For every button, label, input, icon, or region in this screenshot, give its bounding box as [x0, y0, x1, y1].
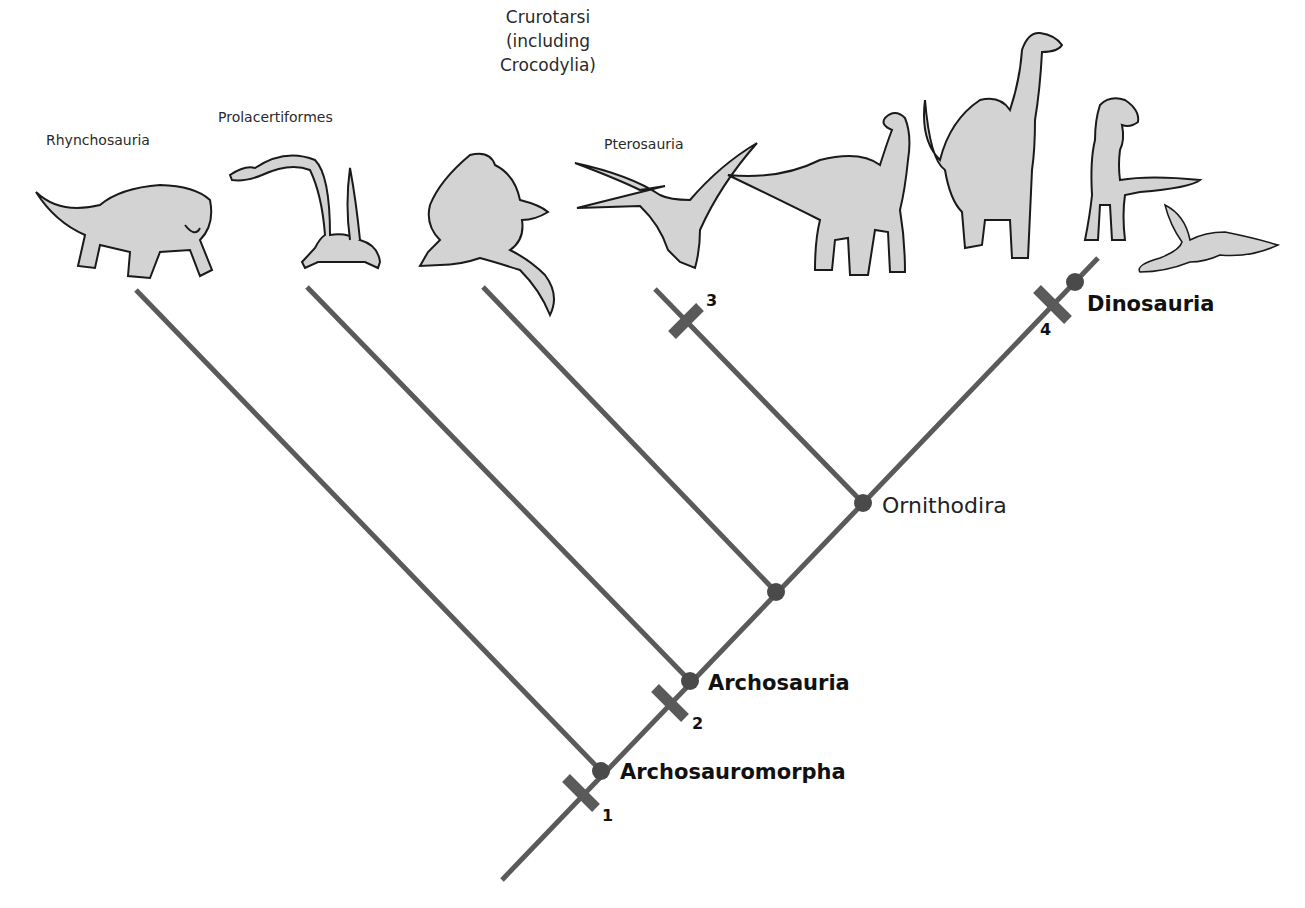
archosauria-node: [681, 672, 699, 690]
character-number-1: 1: [602, 806, 613, 825]
pterosauria-label: Pterosauria: [604, 133, 684, 155]
crurotarsi-label-line-2: (including: [500, 29, 596, 53]
rhynchosauria-label: Rhynchosauria: [46, 129, 150, 151]
unnamed-node: [767, 583, 785, 601]
ornithodira-label: Ornithodira: [882, 493, 1007, 518]
dinosauria-node: [1066, 273, 1084, 291]
rhynchosaur-illustration: [36, 185, 212, 278]
hadrosaur-illustration: [728, 113, 909, 275]
branches: [136, 258, 1098, 880]
bird-illustration: [1139, 205, 1278, 272]
archosauria-label: Archosauria: [708, 671, 850, 695]
prolacertiformes-label: Prolacertiformes: [218, 106, 333, 128]
character-number-2: 2: [692, 714, 703, 733]
crurotarsi-branch: [483, 287, 776, 592]
cladogram-figure: Rhynchosauria Prolacertiformes Crurotars…: [0, 0, 1305, 908]
main-trunk-branch: [502, 258, 1098, 880]
crurotarsi-label: Crurotarsi (including Crocodylia): [500, 5, 596, 77]
prolacertiform-illustration: [230, 156, 380, 269]
sauropod-illustration: [924, 33, 1062, 258]
ornithodira-node: [854, 494, 872, 512]
pterosaur-illustration: [575, 143, 757, 268]
crurotarsi-label-line-1: Crurotarsi: [500, 5, 596, 29]
prolacertiformes-branch: [307, 287, 690, 681]
dinosauria-label: Dinosauria: [1087, 292, 1214, 316]
archosauromorpha-label: Archosauromorpha: [620, 760, 846, 784]
rhynchosauria-branch: [136, 290, 601, 771]
archosauromorpha-node: [592, 762, 610, 780]
character-number-4: 4: [1040, 320, 1051, 339]
character-tick-1: [566, 778, 596, 808]
character-number-3: 3: [706, 291, 717, 310]
theropod-illustration: [1085, 98, 1200, 240]
crurotarsi-label-line-3: Crocodylia): [500, 53, 596, 77]
